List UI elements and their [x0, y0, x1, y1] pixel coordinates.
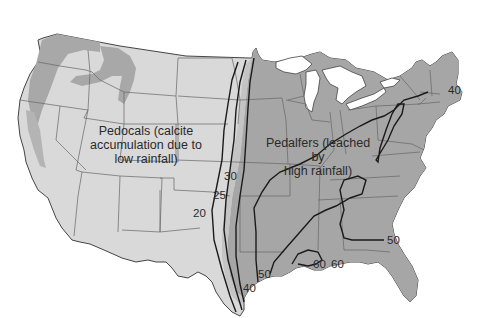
isohyet-label-25: 25	[213, 189, 226, 201]
isohyet-label-50-gulf: 50	[258, 268, 271, 280]
us-soil-map	[0, 0, 496, 318]
pedocals-label-line1: Pedocals (calcite	[78, 124, 214, 138]
pedocals-label-line3: low rainfall)	[78, 152, 214, 166]
pedalfers-label-line2: high rainfall)	[258, 164, 378, 178]
isohyet-label-60-b: 60	[331, 258, 344, 270]
isohyet-label-40-south: 40	[243, 282, 256, 294]
isohyet-label-40-northeast: 40	[448, 84, 461, 96]
isohyet-label-20: 20	[193, 207, 206, 219]
pedocals-label: Pedocals (calcite accumulation due to lo…	[78, 124, 214, 166]
pedalfers-label-line1: Pedalfers (leached by	[258, 136, 378, 164]
isohyet-label-30: 30	[224, 170, 237, 182]
isohyet-label-50-atlantic: 50	[387, 234, 400, 246]
isohyet-label-60-a: 60	[313, 258, 326, 270]
pedalfers-label: Pedalfers (leached by high rainfall)	[258, 136, 378, 178]
pedocals-label-line2: accumulation due to	[78, 138, 214, 152]
